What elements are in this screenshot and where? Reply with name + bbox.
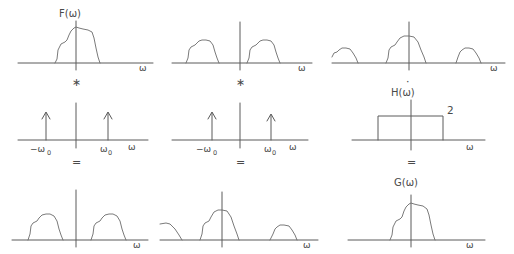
diagram-canvas: F(ω) ω ∗ ω ∗ ω · <box>0 0 514 254</box>
impulse-positive-omega-zero <box>267 114 275 140</box>
spectrum-curve <box>55 27 100 63</box>
tick-label-negative-omega-zero: −ω <box>30 144 45 154</box>
spectrum-curve-right <box>456 48 481 63</box>
panel-spectrum-f-omega: F(ω) ω ∗ <box>18 8 153 89</box>
axis-label-omega: ω <box>133 240 141 250</box>
panel-spectrum-three-lobes: ω · <box>332 22 505 88</box>
panel-spectrum-demodulated-three-lobes: ω <box>160 192 318 250</box>
spectrum-curve-center <box>386 36 426 63</box>
axis-label-omega: ω <box>128 142 136 152</box>
panel-impulse-train-pair-left: −ω 0 ω 0 ω = <box>18 103 148 169</box>
panel-label-h-omega: H(ω) <box>391 87 415 98</box>
panel-impulse-train-pair-middle: −ω 0 ω 0 ω = <box>172 103 308 169</box>
tick-subscript-zero-right: 0 <box>108 149 112 157</box>
spectrum-curve-left <box>332 48 358 63</box>
equals-operator: = <box>407 156 416 169</box>
spectrum-curve-right <box>270 225 297 240</box>
panel-label-g-omega: G(ω) <box>394 177 418 188</box>
spectrum-curve-right <box>91 214 126 240</box>
axis-label-omega: ω <box>289 142 297 152</box>
spectrum-curve-left <box>160 223 182 240</box>
spectrum-curve-center <box>200 210 239 240</box>
spectrum-curve <box>390 203 435 240</box>
tick-label-positive-omega-zero: ω <box>100 144 108 154</box>
tick-label-negative-omega-zero: −ω <box>196 144 211 154</box>
spectrum-curve-right <box>247 40 280 63</box>
spectrum-curve-left <box>186 40 219 63</box>
axis-label-omega: ω <box>466 240 474 250</box>
equals-operator: = <box>72 156 81 169</box>
axis-label-omega: ω <box>139 63 147 73</box>
convolution-operator: ∗ <box>72 76 81 89</box>
axis-label-omega: ω <box>298 63 306 73</box>
panel-spectrum-f-shifted-pair: ω ∗ <box>172 22 312 89</box>
tick-subscript-zero-right: 0 <box>272 149 276 157</box>
tick-label-positive-omega-zero: ω <box>264 144 272 154</box>
axis-label-omega: ω <box>490 63 498 73</box>
axis-label-omega: ω <box>466 142 474 152</box>
equals-operator: = <box>236 156 245 169</box>
amplitude-label-two: 2 <box>447 104 454 116</box>
impulse-negative-omega-zero <box>42 112 50 140</box>
panel-spectrum-modulated-pair: ω <box>12 190 148 250</box>
impulse-positive-omega-zero <box>104 112 112 140</box>
panel-label-f-omega: F(ω) <box>59 8 81 19</box>
spectrum-curve-left <box>28 214 63 240</box>
tick-subscript-zero-left: 0 <box>47 149 51 157</box>
convolution-operator: ∗ <box>236 76 245 89</box>
impulse-negative-omega-zero <box>208 112 216 140</box>
tick-subscript-zero-left: 0 <box>213 149 217 157</box>
panel-spectrum-g-omega: G(ω) ω <box>348 177 485 250</box>
figure-root: F(ω) ω ∗ ω ∗ ω · <box>0 0 514 254</box>
axis-label-omega: ω <box>303 240 311 250</box>
panel-lowpass-filter-h-omega: H(ω) 2 ω = <box>352 87 485 169</box>
